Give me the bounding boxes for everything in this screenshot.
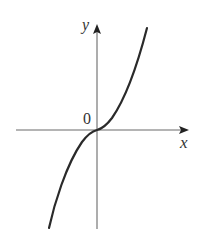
origin-label: 0 <box>83 111 91 127</box>
y-axis-label: y <box>82 17 89 33</box>
cubic-graph <box>0 0 204 233</box>
cubic-curve <box>49 28 147 228</box>
x-axis-label: x <box>180 134 188 151</box>
